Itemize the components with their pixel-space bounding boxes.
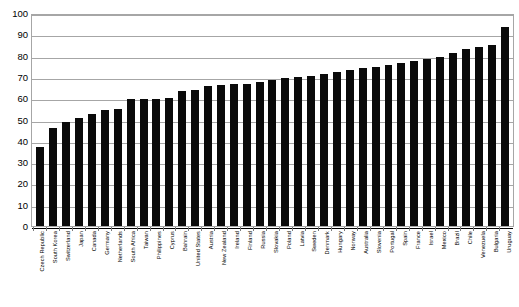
bar	[475, 47, 483, 226]
x-label-slot: Brazil	[448, 231, 461, 305]
x-label-slot: Sweden	[305, 231, 318, 305]
x-tick-label: Ireland	[234, 231, 240, 249]
bar-slot	[60, 15, 73, 226]
x-label-slot: Portugal	[383, 231, 396, 305]
x-label-slot: South Africa	[124, 231, 137, 305]
x-label-slot: Chile	[460, 231, 473, 305]
y-tick-label: 90	[0, 31, 28, 41]
x-label-slot: Denmark	[318, 231, 331, 305]
bar	[230, 84, 238, 226]
x-tick-label: Germany	[104, 231, 110, 255]
bar-slot	[292, 15, 305, 226]
x-tick-label: South Africa	[130, 231, 136, 262]
bar-slot	[434, 15, 447, 226]
bar	[36, 147, 44, 226]
bar	[320, 74, 328, 226]
bar	[191, 90, 199, 226]
x-tick-label: Slovakia	[273, 231, 279, 253]
y-tick-label: 100	[0, 9, 28, 19]
bar-slot	[111, 15, 124, 226]
x-tick-label: Australia	[363, 231, 369, 254]
x-tick-label: Austria	[208, 231, 214, 249]
x-tick-label: Canada	[91, 231, 97, 251]
bar-slot	[214, 15, 227, 226]
y-tick-label: 30	[0, 158, 28, 168]
bar-slot	[459, 15, 472, 226]
x-tick-label: Venezuela	[480, 231, 486, 258]
bar-slot	[98, 15, 111, 226]
bar-chart: 1009080706050403020100 Czech RepublicSou…	[0, 0, 519, 307]
bar-slot	[240, 15, 253, 226]
x-tick-label: United States	[195, 231, 201, 266]
x-tick-label: Philippines	[156, 231, 162, 259]
bar-slot	[498, 15, 511, 226]
bar-slot	[34, 15, 47, 226]
y-tick-label: 40	[0, 137, 28, 147]
x-label-slot: Latvia	[292, 231, 305, 305]
x-label-slot: Mexico	[435, 231, 448, 305]
x-tick-label: Brazil	[454, 231, 460, 246]
y-tick-label: 80	[0, 52, 28, 62]
bar-slot	[318, 15, 331, 226]
bar-slot	[382, 15, 395, 226]
x-label-slot: United States	[188, 231, 201, 305]
bar-slot	[163, 15, 176, 226]
bar-slot	[330, 15, 343, 226]
bar	[114, 109, 122, 226]
y-axis: 1009080706050403020100	[0, 14, 28, 227]
y-tick-label: 60	[0, 94, 28, 104]
x-tick-label: Czech Republic	[39, 231, 45, 272]
bar-slot	[305, 15, 318, 226]
plot-area	[31, 14, 514, 227]
x-tick-label: Uruguay	[506, 231, 512, 253]
bar	[49, 128, 57, 226]
x-tick-label: Israel	[428, 231, 434, 245]
x-tick-label: New Zealand	[221, 231, 227, 265]
x-label-slot: Bulgaria	[486, 231, 499, 305]
bar-slot	[176, 15, 189, 226]
bar-slot	[343, 15, 356, 226]
x-label-slot: Israel	[422, 231, 435, 305]
bar-slot	[408, 15, 421, 226]
bar-slot	[227, 15, 240, 226]
bar	[397, 63, 405, 226]
bar	[410, 61, 418, 226]
bar	[346, 70, 354, 226]
bar	[101, 110, 109, 226]
bar	[372, 67, 380, 226]
bar	[307, 76, 315, 226]
y-tick-label: 10	[0, 201, 28, 211]
x-tick-label: Slovenia	[376, 231, 382, 253]
x-label-slot: Netherlands	[111, 231, 124, 305]
x-label-slot: Russia	[253, 231, 266, 305]
bar-slot	[124, 15, 137, 226]
x-label-slot: Uruguay	[499, 231, 512, 305]
bar	[385, 65, 393, 226]
bar	[217, 85, 225, 226]
x-label-slot: Slovakia	[266, 231, 279, 305]
x-tick-label: Russia	[260, 231, 266, 249]
x-tick-label: Latvia	[299, 231, 305, 247]
bar	[75, 118, 83, 226]
bar-slot	[485, 15, 498, 226]
bars-layer	[32, 15, 513, 226]
bar	[488, 45, 496, 226]
x-label-slot: Finland	[240, 231, 253, 305]
x-tick-label: Taiwan	[143, 231, 149, 249]
bar	[243, 84, 251, 226]
bar	[449, 53, 457, 226]
bar-slot	[189, 15, 202, 226]
x-label-slot: Bahrain	[175, 231, 188, 305]
bar	[268, 80, 276, 226]
y-tick-label: 20	[0, 180, 28, 190]
bar	[140, 99, 148, 226]
x-label-slot: Czech Republic	[33, 231, 46, 305]
x-tick-label: Japan	[78, 231, 84, 247]
bar	[178, 91, 186, 226]
x-tick-label: Portugal	[389, 231, 395, 253]
x-tick-label: South Korea	[52, 231, 58, 263]
bar	[204, 86, 212, 226]
x-tick-label: Mexico	[441, 231, 447, 249]
x-tick-label: Bulgaria	[493, 231, 499, 252]
bar	[88, 114, 96, 226]
